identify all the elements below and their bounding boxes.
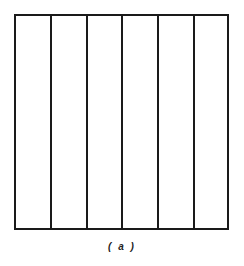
divider-1 xyxy=(50,14,52,230)
divider-3 xyxy=(121,14,123,230)
divider-2 xyxy=(86,14,88,230)
figure-caption: ( a ) xyxy=(0,241,244,252)
divider-4 xyxy=(157,14,159,230)
divider-5 xyxy=(193,14,195,230)
